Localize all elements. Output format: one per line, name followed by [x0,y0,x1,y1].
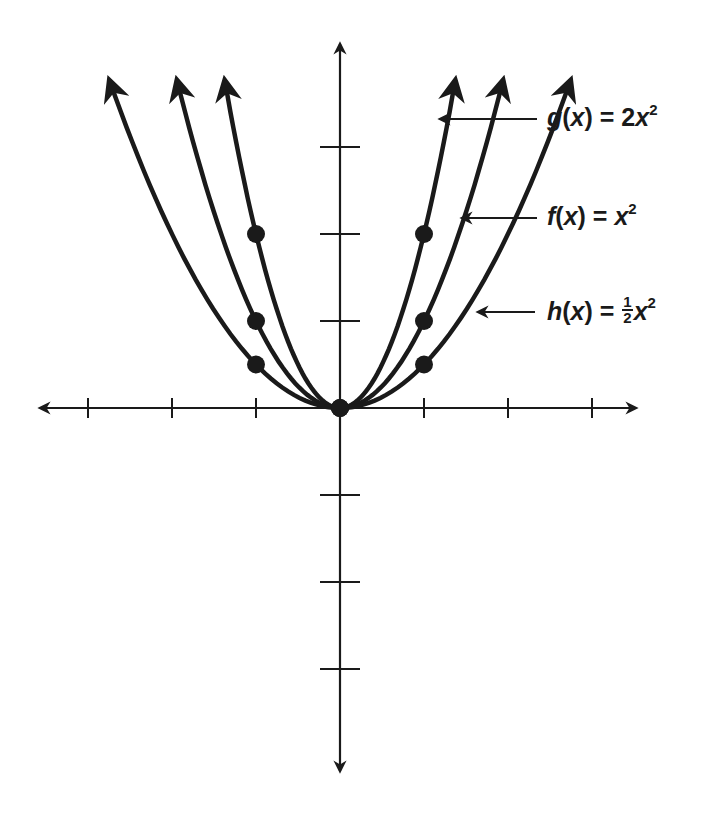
label-f: f(x) = x2 [547,204,637,229]
fraction-one-half: 12 [622,295,632,325]
label-g: g(x) = 2x2 [547,105,658,130]
point-h [415,356,433,374]
label-h: h(x) = 12x2 [547,298,656,328]
point-f [415,312,433,330]
point-g [415,225,433,243]
point-f [247,312,265,330]
point-h [247,356,265,374]
label-pointer-arrows [440,119,537,312]
point-h [331,399,349,417]
point-g [247,225,265,243]
